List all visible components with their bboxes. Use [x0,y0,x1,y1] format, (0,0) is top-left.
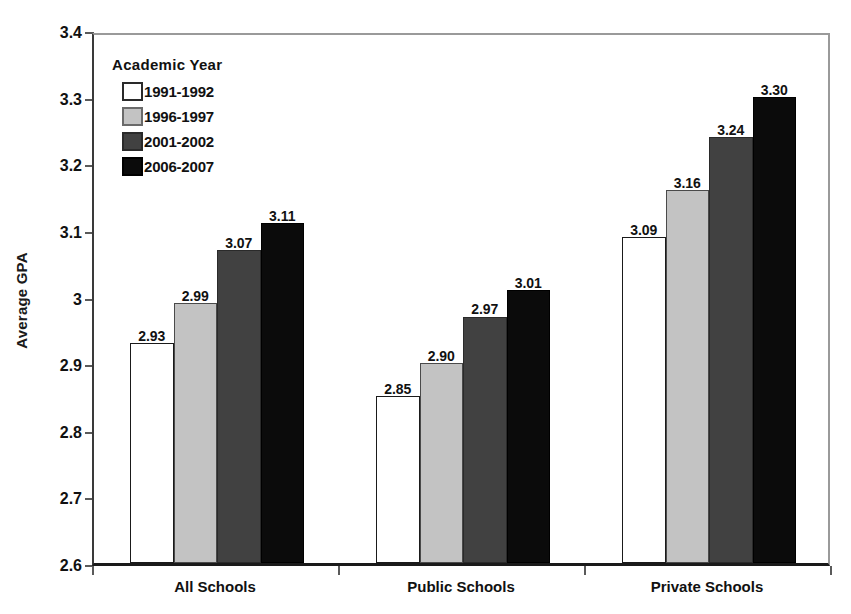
y-axis-tick-label: 3 [0,291,92,309]
y-axis-tick-label: 2.9 [0,357,92,375]
y-axis-tick-label: 2.6 [0,557,92,575]
bar [709,137,753,563]
y-axis-tick-label: 3.2 [0,157,92,175]
bar [420,363,464,563]
legend-item-label: 1991-1992 [144,83,214,100]
bar-value-label: 3.11 [253,208,313,224]
y-axis-tick-label: 3.1 [0,224,92,242]
legend-item-label: 2001-2002 [144,133,214,150]
x-axis-category-label: All Schools [92,578,338,595]
legend-swatch-icon [122,157,143,176]
bar [376,396,420,563]
legend-item: 1996-1997 [122,104,314,129]
x-axis-tick-mark [830,566,832,575]
legend-item: 2006-2007 [122,154,314,179]
legend-item: 1991-1992 [122,79,314,104]
bar [261,223,305,563]
bar [174,303,218,563]
y-axis-tick-label: 3.3 [0,91,92,109]
legend-item-label: 1996-1997 [144,108,214,125]
bar [507,290,551,563]
bar [622,237,666,563]
bar [666,190,710,563]
y-axis-ticks: 3.43.33.23.132.92.82.72.6 [0,0,92,614]
x-axis-tick-mark [338,566,340,575]
bar [463,317,507,564]
legend-items: 1991-19921996-19972001-20022006-2007 [104,79,314,179]
legend-item-label: 2006-2007 [144,158,214,175]
y-axis-tick-label: 3.4 [0,24,92,42]
bar-value-label: 3.01 [499,275,559,291]
x-axis-tick-mark [584,566,586,575]
legend-swatch-icon [122,107,143,126]
x-axis-category-label: Private Schools [584,578,830,595]
legend-title: Academic Year [112,56,314,73]
bar [753,97,797,563]
bar-value-label: 3.30 [745,82,805,98]
legend-item: 2001-2002 [122,129,314,154]
legend: Academic Year 1991-19921996-19972001-200… [104,56,314,179]
bar [130,343,174,563]
bar-chart: Average GPA 3.43.33.23.132.92.82.72.6 2.… [0,0,851,614]
y-axis-tick-label: 2.7 [0,490,92,508]
x-axis-category-label: Public Schools [338,578,584,595]
y-axis-tick-label: 2.8 [0,424,92,442]
bar [217,250,261,563]
x-axis-tick-mark [92,566,94,575]
legend-swatch-icon [122,82,143,101]
legend-swatch-icon [122,132,143,151]
